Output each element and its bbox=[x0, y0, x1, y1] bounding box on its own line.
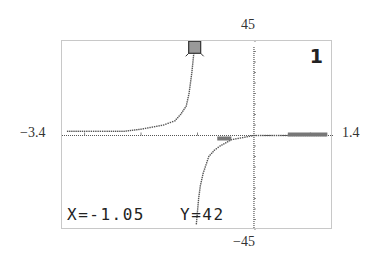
ymin-label: −45 bbox=[233, 234, 255, 250]
graph-plot bbox=[62, 41, 333, 230]
curve-segment bbox=[288, 133, 328, 137]
ymax-label: 45 bbox=[241, 17, 255, 33]
graph-number: 1 bbox=[310, 45, 323, 67]
y-readout: Y=42 bbox=[180, 205, 225, 224]
xmin-label: −3.4 bbox=[20, 125, 45, 141]
xmax-label: 1.4 bbox=[342, 125, 360, 141]
trace-cursor-icon bbox=[186, 41, 204, 56]
x-readout: X=-1.05 bbox=[67, 205, 145, 224]
calculator-graph-screen: 1 X=-1.05 Y=42 bbox=[61, 40, 332, 229]
